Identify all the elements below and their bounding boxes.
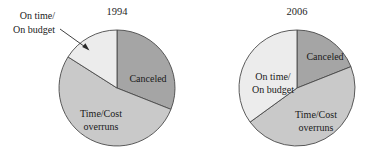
chart-2006-overruns-label-line1: Time/Cost	[295, 109, 337, 120]
charts-canvas: 1994 Canceled Time/Cost overruns On time…	[0, 0, 378, 165]
chart-2006-on-time-label-line2: On budget	[252, 84, 294, 95]
chart-2006-on-time-label-line1: On time/	[255, 71, 290, 82]
chart-1994-overruns-label-line2: overruns	[84, 121, 119, 132]
chart-2006-year-label: 2006	[287, 6, 308, 17]
chart-1994-on-time-label-line1: On time/	[20, 10, 55, 21]
chart-1994-canceled-label: Canceled	[129, 73, 166, 84]
chart-2006-overruns-label-line2: overruns	[299, 122, 334, 133]
chart-1994: 1994 Canceled Time/Cost overruns On time…	[13, 6, 175, 146]
chart-2006: 2006 Canceled On time/ On budget Time/Co…	[239, 6, 355, 146]
chart-2006-canceled-label: Canceled	[306, 51, 343, 62]
chart-1994-year-label: 1994	[107, 6, 129, 17]
chart-1994-overruns-label-line1: Time/Cost	[80, 108, 122, 119]
chart-1994-on-time-label-line2: On budget	[13, 24, 55, 35]
pie-chart-figure: 1994 Canceled Time/Cost overruns On time…	[0, 0, 378, 165]
